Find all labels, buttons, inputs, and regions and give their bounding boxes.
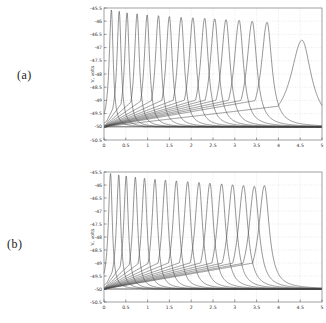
x-tick-label: 0.5 (122, 305, 129, 310)
figure-canvas: (a) (b) 00.511.522.533.544.55-45.5-46-46… (0, 0, 326, 323)
y-tick-label: -48.5 (90, 248, 102, 253)
x-tick-label: 4 (277, 305, 280, 310)
resonance-curve (104, 17, 322, 127)
x-tick-label: 1 (146, 143, 149, 148)
y-axis-label: V, volts (90, 65, 95, 83)
y-axis-label: V, volts (90, 228, 95, 246)
y-tick-label: -49.5 (90, 111, 102, 116)
x-tick-label: 0 (103, 143, 106, 148)
y-tick-label: -49 (94, 98, 102, 103)
y-tick-label: -46.5 (90, 32, 102, 37)
y-tick-label: -50.5 (90, 138, 102, 143)
x-tick-label: 1 (146, 305, 149, 310)
y-tick-label: -50.5 (90, 300, 102, 305)
x-tick-label: 1.5 (166, 305, 173, 310)
y-tick-label: -45.5 (90, 170, 102, 175)
x-tick-label: 2.5 (209, 305, 216, 310)
resonance-plot-b: 00.511.522.533.544.55-45.5-46-46.5-47-47… (0, 160, 326, 323)
x-tick-label: 2.5 (209, 143, 216, 148)
y-tick-label: -48 (94, 235, 102, 240)
x-tick-label: 3.5 (253, 305, 260, 310)
x-tick-label: 4.5 (297, 305, 304, 310)
y-tick-label: -50 (94, 124, 102, 129)
y-tick-label: -49 (94, 261, 102, 266)
x-tick-label: 3 (233, 143, 236, 148)
x-tick-label: 1.5 (166, 143, 173, 148)
x-tick-label: 0 (103, 305, 106, 310)
x-tick-label: 2 (190, 143, 193, 148)
resonance-plot-a: 00.511.522.533.544.55-45.5-46-46.5-47-47… (0, 0, 326, 160)
y-tick-label: -45.5 (90, 6, 102, 11)
y-tick-label: -50 (94, 287, 102, 292)
y-tick-label: -47.5 (90, 58, 102, 63)
y-tick-label: -47.5 (90, 222, 102, 227)
y-tick-label: -46 (94, 183, 102, 188)
y-tick-label: -47 (94, 45, 102, 50)
x-tick-label: 4.5 (297, 143, 304, 148)
y-tick-label: -46.5 (90, 196, 102, 201)
x-tick-label: 0.5 (122, 143, 129, 148)
y-tick-label: -49.5 (90, 274, 102, 279)
x-tick-label: 4 (277, 143, 280, 148)
y-tick-label: -48 (94, 72, 102, 77)
y-tick-label: -46 (94, 19, 102, 24)
y-tick-label: -48.5 (90, 85, 102, 90)
resonance-curve (104, 177, 322, 289)
y-tick-label: -47 (94, 209, 102, 214)
x-tick-label: 3.5 (253, 143, 260, 148)
x-tick-label: 2 (190, 305, 193, 310)
x-tick-label: 5 (321, 143, 324, 148)
x-tick-label: 3 (233, 305, 236, 310)
x-tick-label: 5 (321, 305, 324, 310)
